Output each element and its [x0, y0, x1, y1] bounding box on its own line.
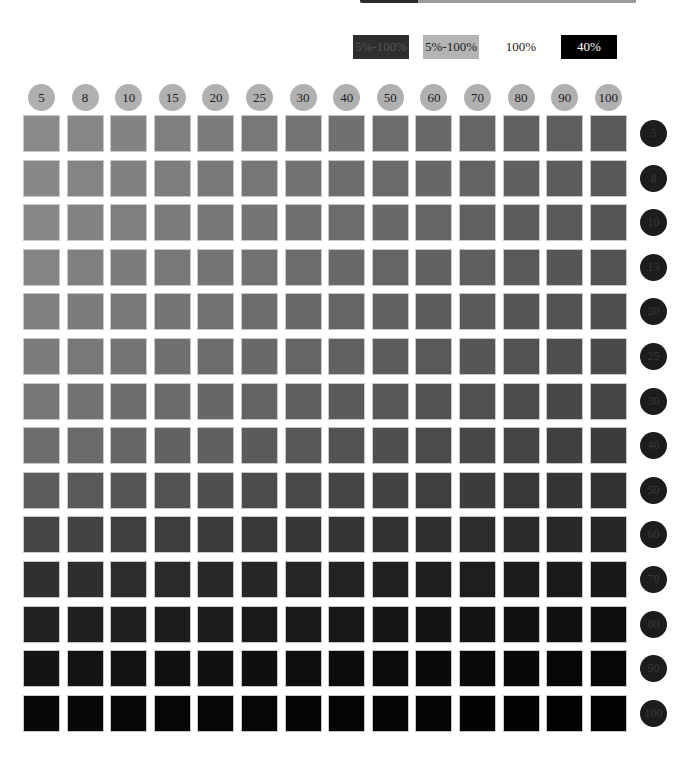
swatch-cell: [197, 561, 234, 598]
swatch-cell: [328, 115, 365, 152]
swatch-cell: [590, 561, 627, 598]
swatch-cell: [546, 427, 583, 464]
swatch-cell: [285, 204, 322, 241]
row-header: 100: [640, 700, 667, 727]
swatch-cell: [241, 249, 278, 286]
swatch-cell: [372, 293, 409, 330]
swatch-cell: [67, 427, 104, 464]
swatch-cell: [110, 293, 147, 330]
swatch-cell: [154, 293, 191, 330]
swatch-cell: [503, 561, 540, 598]
column-header: 5: [28, 84, 55, 111]
swatch-cell: [23, 695, 60, 732]
top-divider-accent: [360, 0, 418, 3]
swatch-cell: [197, 383, 234, 420]
swatch-cell: [67, 115, 104, 152]
swatch-cell: [154, 160, 191, 197]
swatch-cell: [503, 293, 540, 330]
swatch-cell: [197, 160, 234, 197]
swatch-cell: [546, 650, 583, 687]
swatch-cell: [285, 472, 322, 509]
swatch-cell: [459, 561, 496, 598]
swatch-cell: [459, 472, 496, 509]
swatch-cell: [415, 427, 452, 464]
swatch-cell: [110, 204, 147, 241]
swatch-cell: [23, 115, 60, 152]
swatch-cell: [459, 249, 496, 286]
swatch-cell: [590, 338, 627, 375]
swatch-cell: [372, 561, 409, 598]
column-header: 20: [202, 84, 229, 111]
column-header: 80: [508, 84, 535, 111]
swatch-cell: [503, 383, 540, 420]
swatch-cell: [67, 561, 104, 598]
swatch-cell: [241, 338, 278, 375]
swatch-cell: [197, 293, 234, 330]
swatch-cell: [328, 338, 365, 375]
swatch-cell: [459, 516, 496, 553]
swatch-cell: [110, 427, 147, 464]
swatch-cell: [67, 516, 104, 553]
swatch-cell: [23, 204, 60, 241]
row-header: 70: [640, 566, 667, 593]
swatch-cell: [503, 650, 540, 687]
swatch-cell: [415, 293, 452, 330]
swatch-cell: [415, 249, 452, 286]
swatch-cell: [110, 606, 147, 643]
swatch-cell: [241, 695, 278, 732]
swatch-cell: [328, 204, 365, 241]
swatch-cell: [197, 427, 234, 464]
legend-item: 5%-100%: [423, 35, 479, 59]
swatch-cell: [328, 293, 365, 330]
swatch-cell: [415, 338, 452, 375]
swatch-cell: [459, 383, 496, 420]
swatch-cell: [372, 383, 409, 420]
swatch-cell: [372, 115, 409, 152]
swatch-cell: [23, 427, 60, 464]
swatch-cell: [197, 650, 234, 687]
swatch-cell: [154, 606, 191, 643]
swatch-cell: [590, 115, 627, 152]
swatch-cell: [23, 293, 60, 330]
swatch-cell: [285, 115, 322, 152]
swatch-cell: [154, 115, 191, 152]
swatch-cell: [546, 561, 583, 598]
swatch-cell: [23, 516, 60, 553]
swatch-cell: [328, 561, 365, 598]
swatch-cell: [67, 249, 104, 286]
swatch-cell: [241, 427, 278, 464]
swatch-cell: [328, 695, 365, 732]
swatch-cell: [590, 516, 627, 553]
row-header: 60: [640, 521, 667, 548]
swatch-cell: [590, 204, 627, 241]
swatch-cell: [328, 650, 365, 687]
swatch-cell: [546, 695, 583, 732]
swatch-cell: [285, 293, 322, 330]
swatch-cell: [241, 606, 278, 643]
column-header: 70: [464, 84, 491, 111]
swatch-cell: [241, 383, 278, 420]
column-header: 100: [595, 84, 622, 111]
swatch-cell: [328, 472, 365, 509]
swatch-cell: [154, 561, 191, 598]
column-header: 40: [333, 84, 360, 111]
swatch-cell: [372, 606, 409, 643]
row-header: 5: [640, 120, 667, 147]
swatch-cell: [197, 115, 234, 152]
swatch-cell: [546, 293, 583, 330]
swatch-cell: [67, 160, 104, 197]
swatch-cell: [546, 160, 583, 197]
swatch-cell: [285, 249, 322, 286]
row-header: 80: [640, 611, 667, 638]
swatch-cell: [23, 249, 60, 286]
swatch-cell: [67, 472, 104, 509]
row-header: 90: [640, 655, 667, 682]
swatch-cell: [67, 606, 104, 643]
swatch-cell: [110, 472, 147, 509]
swatch-cell: [241, 204, 278, 241]
legend-item: 40%: [561, 35, 617, 59]
swatch-cell: [241, 115, 278, 152]
swatch-cell: [110, 383, 147, 420]
swatch-cell: [154, 650, 191, 687]
swatch-cell: [328, 383, 365, 420]
